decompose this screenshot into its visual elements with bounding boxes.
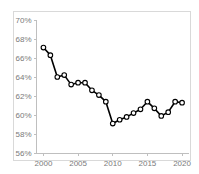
x-tick-label: 2015 (139, 159, 157, 168)
chart-figure: 56%58%60%62%64%66%68%70% 200020052010201… (0, 0, 199, 174)
data-point-marker (159, 114, 164, 119)
data-point-marker (138, 107, 143, 112)
data-point-marker (90, 88, 95, 93)
data-point-marker (97, 93, 102, 98)
y-tick-label: 62% (15, 92, 31, 101)
y-tick-label: 64% (15, 73, 31, 82)
x-axis (37, 153, 190, 156)
data-point-marker (180, 100, 185, 105)
x-tick-labels: 20002005201020152020 (35, 159, 192, 168)
data-series (41, 45, 184, 126)
y-tick-label: 70% (15, 16, 31, 25)
data-point-marker (48, 53, 53, 58)
y-tick-label: 56% (15, 149, 31, 158)
x-tick-label: 2000 (35, 159, 53, 168)
data-point-marker (104, 99, 109, 104)
data-point-marker (76, 80, 81, 85)
x-tick-label: 2020 (173, 159, 191, 168)
data-point-marker (131, 111, 136, 116)
x-tick-label: 2010 (104, 159, 122, 168)
y-tick-label: 68% (15, 35, 31, 44)
series-line (43, 48, 182, 124)
y-tick-label: 60% (15, 111, 31, 120)
y-axis (34, 20, 37, 153)
data-point-marker (173, 99, 178, 104)
data-point-marker (124, 115, 129, 120)
x-tick-label: 2005 (69, 159, 87, 168)
data-point-marker (117, 117, 122, 122)
data-point-marker (145, 99, 150, 104)
y-tick-label: 66% (15, 54, 31, 63)
data-point-marker (69, 82, 74, 87)
data-point-marker (166, 110, 171, 115)
data-point-marker (152, 106, 157, 111)
data-point-marker (83, 80, 88, 85)
data-point-marker (55, 75, 60, 80)
data-point-marker (62, 73, 67, 78)
chart-canvas: 56%58%60%62%64%66%68%70% 200020052010201… (0, 0, 199, 174)
data-point-marker (41, 45, 46, 50)
y-tick-labels: 56%58%60%62%64%66%68%70% (15, 16, 31, 158)
y-tick-label: 58% (15, 130, 31, 139)
data-point-marker (110, 121, 115, 126)
